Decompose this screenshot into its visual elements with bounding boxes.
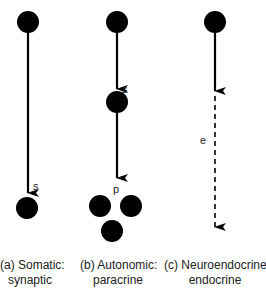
paracrine-label: p	[113, 183, 119, 195]
synapse-label: s	[33, 180, 39, 192]
caption-a: (a) Somatic: synaptic	[0, 258, 60, 288]
caption-b-line2: paracrine	[80, 273, 156, 288]
caption-a-line1: (a) Somatic:	[0, 258, 60, 273]
target-cell-bottom	[101, 220, 123, 242]
panel-c-neuroendocrine: e	[200, 11, 226, 227]
panel-a-somatic: s	[16, 11, 39, 219]
caption-a-line2: synaptic	[0, 273, 60, 288]
target-cell-left	[89, 195, 111, 217]
diagram-canvas: s s p e	[0, 0, 266, 295]
caption-c-line2: endocrine	[164, 273, 266, 288]
caption-b-line1: (b) Autonomic:	[80, 258, 156, 273]
neuroendocrine-cell	[204, 11, 226, 33]
neuron-cell-body	[17, 11, 39, 33]
caption-c-line1: (c) Neuroendocrine:	[164, 258, 266, 273]
caption-c: (c) Neuroendocrine: endocrine	[164, 258, 266, 288]
target-cell-right	[120, 195, 142, 217]
ganglion-neuron	[106, 91, 128, 113]
caption-b: (b) Autonomic: paracrine	[80, 258, 156, 288]
preganglionic-neuron	[106, 11, 128, 33]
endocrine-label: e	[200, 134, 206, 146]
target-cell	[16, 197, 38, 219]
panel-b-autonomic: s p	[89, 11, 142, 242]
